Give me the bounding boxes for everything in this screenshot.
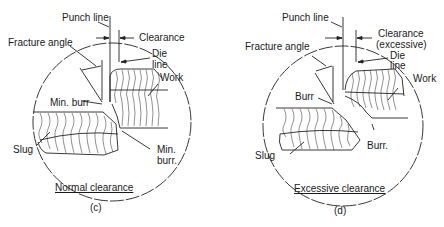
label-slug: Slug [13,144,33,155]
sublabel-c: (c) [90,202,102,213]
label-min: Min. [157,144,176,155]
label-work: Work [160,72,183,83]
caption-normal-clearance: Normal clearance [55,182,133,193]
label-die: Die [152,48,167,59]
label-die-line: line [152,59,168,70]
label-min-burr-top: Min. burr [50,97,89,108]
label-punch-line: Punch line [282,12,329,23]
label-die-line: line [390,60,406,71]
label-slug: Slug [255,150,275,161]
label-burr-top: Burr [295,91,314,102]
label-burr: burr. [157,155,177,166]
label-clearance: Clearance [378,28,424,39]
label-fracture-angle: Fracture angle [8,37,72,48]
label-clearance: Clearance [139,32,185,43]
label-clearance-excessive: (excessive) [376,39,427,50]
label-fracture-angle: Fracture angle [245,41,309,52]
sublabel-d: (d) [334,205,346,216]
caption-excessive-clearance: Excessive clearance [294,183,385,194]
label-burr-bottom: Burr. [367,140,388,151]
label-punch-line: Punch line [62,12,109,23]
label-work: Work [413,73,436,84]
